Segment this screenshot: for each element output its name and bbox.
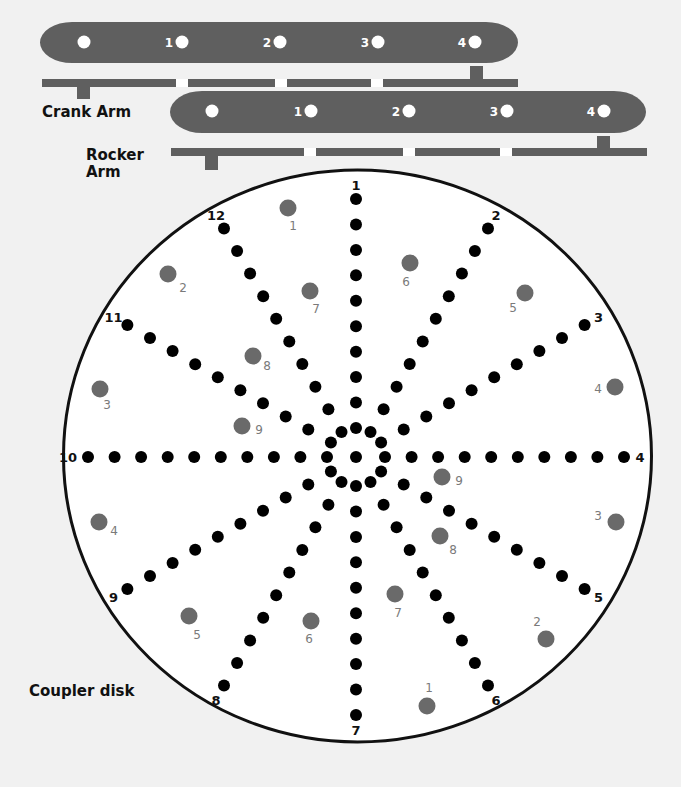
spoke-11-dot bbox=[144, 332, 156, 344]
spoke-7-dot bbox=[350, 607, 362, 619]
spoke-9-dot bbox=[257, 505, 269, 517]
spoke-10-dot bbox=[109, 451, 121, 463]
spoke-7-dot bbox=[350, 505, 362, 517]
rocker-pivot-tab-left bbox=[205, 148, 218, 170]
spoke-4-dot bbox=[538, 451, 550, 463]
spoke-7-dot bbox=[350, 531, 362, 543]
crank-bar-notch bbox=[176, 79, 188, 87]
left-gray-hole-4 bbox=[91, 514, 108, 531]
crank-pivot-tab-left bbox=[77, 79, 90, 99]
spoke-center-dot bbox=[350, 451, 362, 463]
spoke-label-1: 1 bbox=[351, 178, 360, 193]
spoke-12-dot bbox=[231, 245, 243, 257]
spoke-2-dot bbox=[482, 222, 494, 234]
spoke-1-dot bbox=[350, 346, 362, 358]
spoke-11-dot bbox=[234, 384, 246, 396]
right-gray-hole-label: 6 bbox=[402, 275, 410, 289]
spoke-12-dot bbox=[296, 358, 308, 370]
spoke-9-dot bbox=[121, 583, 133, 595]
left-gray-hole-label: 5 bbox=[193, 628, 201, 642]
rocker-arm-hole-3 bbox=[501, 105, 514, 118]
spoke-3-dot bbox=[375, 437, 387, 449]
crank-arm-hole-2 bbox=[274, 36, 287, 49]
spoke-2-dot bbox=[430, 313, 442, 325]
spoke-12-dot bbox=[270, 313, 282, 325]
crank-pivot-tab-right bbox=[470, 66, 483, 87]
left-gray-hole-label: 4 bbox=[110, 524, 118, 538]
spoke-label-9: 9 bbox=[109, 590, 118, 605]
spoke-label-5: 5 bbox=[594, 590, 603, 605]
rocker-arm-label-line1: Rocker bbox=[86, 147, 144, 164]
spoke-label-8: 8 bbox=[211, 693, 220, 708]
rocker-bar-notch bbox=[304, 148, 316, 156]
spoke-5-dot bbox=[443, 505, 455, 517]
spoke-2-dot bbox=[391, 381, 403, 393]
spoke-2-dot bbox=[378, 403, 390, 415]
spoke-8-dot bbox=[257, 612, 269, 624]
spoke-7-dot bbox=[350, 633, 362, 645]
spoke-5-dot bbox=[398, 479, 410, 491]
rocker-arm-hole-label: 2 bbox=[392, 105, 400, 119]
spoke-8-dot bbox=[336, 476, 348, 488]
left-gray-hole-label: 8 bbox=[263, 359, 271, 373]
rocker-arm-hole-pivot bbox=[206, 105, 219, 118]
right-gray-hole-label: 3 bbox=[594, 509, 602, 523]
crank-arm-hole-label: 3 bbox=[361, 36, 369, 50]
coupler-disk-label: Coupler disk bbox=[29, 683, 134, 700]
rocker-arm-hole-1 bbox=[305, 105, 318, 118]
spoke-9-dot bbox=[212, 531, 224, 543]
rocker-arm-label-line2: Arm bbox=[86, 164, 121, 181]
rocker-bar bbox=[171, 136, 647, 170]
spoke-5-dot bbox=[420, 492, 432, 504]
rocker-arm-hole-label: 3 bbox=[490, 105, 498, 119]
spoke-6-dot bbox=[404, 544, 416, 556]
spoke-2-dot bbox=[469, 245, 481, 257]
right-gray-hole-label: 5 bbox=[509, 301, 517, 315]
spoke-1-dot bbox=[350, 371, 362, 383]
left-gray-hole-label: 2 bbox=[179, 281, 187, 295]
spoke-12-dot bbox=[244, 268, 256, 280]
left-gray-hole-7 bbox=[302, 283, 319, 300]
right-gray-hole-label: 2 bbox=[533, 615, 541, 629]
coupler-disk: 123456789101112 123456789123456789 bbox=[59, 170, 652, 742]
spoke-11-dot bbox=[189, 358, 201, 370]
right-gray-hole-9 bbox=[434, 469, 451, 486]
left-gray-hole-label: 7 bbox=[312, 302, 320, 316]
spoke-8-dot bbox=[244, 634, 256, 646]
crank-arm-hole-label: 1 bbox=[165, 36, 173, 50]
spoke-12-dot bbox=[218, 222, 230, 234]
spoke-5-dot bbox=[533, 557, 545, 569]
spoke-7-dot bbox=[350, 480, 362, 492]
spoke-12-dot bbox=[322, 403, 334, 415]
left-gray-hole-label: 6 bbox=[305, 632, 313, 646]
left-gray-hole-3 bbox=[92, 381, 109, 398]
right-gray-hole-7 bbox=[387, 586, 404, 603]
left-gray-hole-1 bbox=[280, 200, 297, 217]
spoke-1-dot bbox=[350, 320, 362, 332]
spoke-8-dot bbox=[270, 589, 282, 601]
spoke-11-dot bbox=[302, 423, 314, 435]
spoke-4-dot bbox=[379, 451, 391, 463]
spoke-6-dot bbox=[417, 567, 429, 579]
spoke-5-dot bbox=[579, 583, 591, 595]
spoke-4-dot bbox=[406, 451, 418, 463]
spoke-3-dot bbox=[466, 384, 478, 396]
right-gray-hole-4 bbox=[607, 379, 624, 396]
spoke-2-dot bbox=[456, 268, 468, 280]
left-gray-hole-5 bbox=[181, 608, 198, 625]
spoke-9-dot bbox=[167, 557, 179, 569]
spoke-1-dot bbox=[350, 397, 362, 409]
spoke-label-2: 2 bbox=[491, 208, 500, 223]
spoke-6-dot bbox=[430, 589, 442, 601]
right-gray-hole-1 bbox=[419, 698, 436, 715]
spoke-4-dot bbox=[459, 451, 471, 463]
crank-arm: 1234 bbox=[40, 22, 518, 63]
right-gray-hole-label: 9 bbox=[455, 474, 463, 488]
spoke-7-dot bbox=[350, 658, 362, 670]
spoke-12-dot bbox=[336, 426, 348, 438]
crank-arm-hole-label: 4 bbox=[458, 36, 466, 50]
left-gray-hole-9 bbox=[234, 418, 251, 435]
crank-arm-hole-3 bbox=[372, 36, 385, 49]
right-gray-hole-5 bbox=[517, 285, 534, 302]
spoke-10-dot bbox=[135, 451, 147, 463]
